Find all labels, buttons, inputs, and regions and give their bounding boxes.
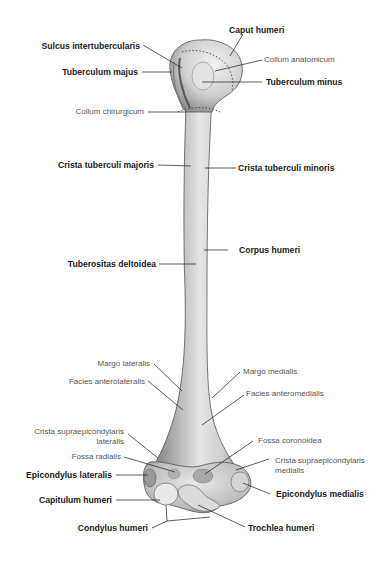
label-margo-lateralis: Margo lateralis: [80, 359, 150, 369]
label-fossa-coronoidea: Fossa coronoidea: [258, 436, 322, 446]
label-capitulum-humeri: Capitulum humeri: [20, 495, 112, 505]
label-crista-supraepicondylaris-lateralis-line1: Crista supraepicondylaris: [20, 427, 124, 437]
label-facies-anteromedialis: Facies anteromedialis: [246, 389, 324, 399]
label-facies-anterolateralis: Facies anterolateralis: [50, 377, 145, 387]
label-crista-tuberculi-minoris: Crista tuberculi minoris: [238, 163, 334, 173]
label-fossa-radialis: Fossa radialis: [50, 452, 121, 462]
fossa-coronoidea-shape: [193, 469, 213, 483]
label-corpus-humeri: Corpus humeri: [239, 245, 300, 255]
corpus-humeri-shape: [148, 100, 242, 490]
epicondylus-lateralis-shape: [144, 469, 156, 487]
label-collum-anatomicum: Collum anatomicum: [264, 55, 335, 65]
label-caput-humeri: Caput humeri: [229, 25, 284, 35]
label-trochlea-humeri: Trochlea humeri: [248, 523, 314, 533]
label-tuberculum-minus: Tuberculum minus: [266, 77, 342, 87]
label-epicondylus-lateralis: Epicondylus lateralis: [10, 470, 112, 480]
label-collum-chirurgicum: Collum chirurgicum: [60, 107, 144, 117]
tuberculum-minus-shape: [192, 62, 214, 90]
humerus-diagram: Caput humeri Sulcus intertubercularis Co…: [0, 0, 390, 572]
label-margo-medialis: Margo medialis: [243, 367, 297, 377]
epicondylus-medialis-shape: [231, 472, 249, 492]
label-crista-supraepicondylaris-medialis-line1: Crista supraepicondylaris: [275, 456, 365, 466]
label-epicondylus-medialis: Epicondylus medialis: [276, 489, 364, 499]
label-crista-supraepicondylaris-medialis-line2: medialis: [275, 466, 304, 476]
label-condylus-humeri: Condylus humeri: [50, 523, 148, 533]
label-sulcus-intertubercularis: Sulcus intertubercularis: [32, 41, 140, 51]
capitulum-shape: [154, 483, 178, 505]
label-crista-supraepicondylaris-lateralis-line2: lateralis: [60, 437, 124, 447]
label-tuberculum-majus: Tuberculum majus: [50, 67, 138, 77]
label-crista-tuberculi-majoris: Crista tuberculi majoris: [36, 160, 154, 170]
label-tuberositas-deltoidea: Tuberositas deltoidea: [40, 259, 156, 269]
